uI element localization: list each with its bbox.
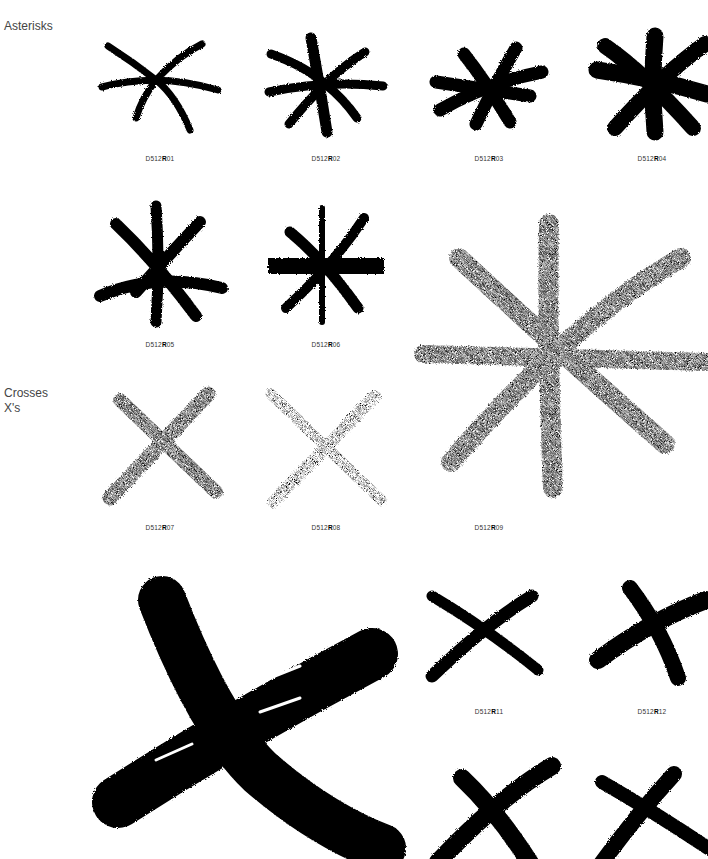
cross-glyph-r07[interactable] xyxy=(100,388,224,508)
code-label-r02: D512R02 xyxy=(312,155,341,162)
cross-crayon-icon xyxy=(265,388,389,508)
asterisk-heavy-icon xyxy=(593,30,708,138)
asterisk-glyph-r04[interactable] xyxy=(593,30,708,138)
cross-glyph-r12[interactable] xyxy=(592,580,708,686)
section-label-crosses: Crosses xyxy=(4,386,48,401)
cross-brush-icon xyxy=(426,588,550,682)
cross-glyph-r08[interactable] xyxy=(265,388,389,508)
asterisk-glyph-r02[interactable] xyxy=(265,32,387,136)
code-label-r12: D512R12 xyxy=(638,708,667,715)
section-sublabel-xs: X's xyxy=(4,401,20,416)
code-label-r03: D512R03 xyxy=(475,155,504,162)
code-label-r01: D512R01 xyxy=(146,155,175,162)
code-label-r09: D512R09 xyxy=(475,524,504,531)
cross-glyph-r10[interactable] xyxy=(100,584,400,859)
cross-glyph-r13[interactable] xyxy=(428,762,552,859)
code-label-r06: D512R06 xyxy=(312,341,341,348)
cross-glyph-r11[interactable] xyxy=(426,588,550,682)
cross-brush-large-icon xyxy=(100,584,400,859)
asterisk-glyph-r09[interactable] xyxy=(415,218,708,498)
asterisk-brush-icon xyxy=(98,32,224,136)
asterisk-brush-icon xyxy=(264,204,388,326)
cross-brush-icon xyxy=(428,762,552,859)
asterisk-brush-icon xyxy=(96,202,226,328)
asterisk-glyph-r01[interactable] xyxy=(98,32,224,136)
code-label-r08: D512R08 xyxy=(312,524,341,531)
asterisk-glyph-r06[interactable] xyxy=(264,204,388,326)
cross-brush-icon xyxy=(592,580,708,686)
section-label-asterisks: Asterisks xyxy=(4,19,53,34)
code-label-r05: D512R05 xyxy=(146,341,175,348)
code-label-r04: D512R04 xyxy=(638,155,667,162)
cross-crayon-icon xyxy=(100,388,224,508)
code-label-r07: D512R07 xyxy=(146,524,175,531)
cross-brush-icon xyxy=(594,768,708,859)
asterisk-glyph-r05[interactable] xyxy=(96,202,226,328)
asterisk-heavy-icon xyxy=(430,38,550,130)
asterisk-brush-icon xyxy=(265,32,387,136)
cross-glyph-r14[interactable] xyxy=(594,768,708,859)
asterisk-crayon-icon xyxy=(415,218,708,498)
code-label-r11: D512R11 xyxy=(475,708,503,715)
asterisk-glyph-r03[interactable] xyxy=(430,38,550,130)
